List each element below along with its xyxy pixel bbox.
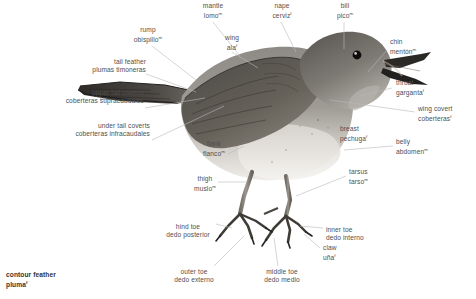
- label-wing-es: alaf: [204, 42, 260, 52]
- label-nape: nape cervizf: [254, 2, 310, 21]
- label-hind-toe-es: dedo posterior: [146, 231, 230, 239]
- label-wing: wing alaf: [204, 34, 260, 53]
- label-under-tail-coverts: under tail coverts coberteras infracauda…: [4, 122, 150, 138]
- label-chin-en: chin: [390, 38, 416, 46]
- label-rump-en: rump: [112, 26, 184, 34]
- label-upper-tail-coverts-en: upper tail coverts: [6, 89, 144, 97]
- label-mantle-en: mantle: [185, 2, 241, 10]
- label-upper-tail-coverts: upper tail coverts coberteras supracauda…: [6, 89, 144, 105]
- label-claw-en: claw: [323, 244, 337, 252]
- label-belly-es: abdomenm: [396, 146, 428, 156]
- leader-tarsus: [296, 176, 346, 196]
- label-flank-en: flank: [188, 140, 240, 148]
- label-tarsus: tarsus tarsom: [349, 168, 368, 187]
- label-chin-es: mentónm: [390, 46, 416, 56]
- label-mantle-es: lomom: [185, 10, 241, 20]
- leader-outer-toe: [214, 236, 244, 266]
- leader-under-tail-coverts: [152, 106, 224, 140]
- label-breast: breast pechugaf: [340, 125, 367, 144]
- label-nape-es: cervizf: [254, 10, 310, 20]
- label-throat: throat gargantaf: [396, 79, 424, 98]
- label-hind-toe-en: hind toe: [146, 223, 230, 231]
- label-breast-en: breast: [340, 125, 367, 133]
- leader-rump: [152, 46, 196, 80]
- label-thigh: thigh muslom: [178, 175, 232, 194]
- label-middle-toe-es: dedo medio: [238, 276, 326, 284]
- label-under-tail-coverts-es: coberteras infracaudales: [4, 130, 150, 138]
- label-claw: claw uñaf: [323, 244, 337, 263]
- label-tarsus-en: tarsus: [349, 168, 368, 176]
- leader-inner-toe: [300, 226, 323, 228]
- label-wing-en: wing: [204, 34, 260, 42]
- label-wing-covert-es: coberterasf: [418, 113, 452, 123]
- leader-middle-toe: [274, 238, 278, 266]
- label-bill-en: bill: [317, 2, 373, 10]
- label-outer-toe: outer toe dedo externo: [150, 268, 238, 284]
- label-tail-feather-es: plumas timoneras: [10, 66, 146, 74]
- leader-wing-covert: [330, 100, 415, 112]
- label-mantle: mantle lomom: [185, 2, 241, 21]
- leader-chin: [368, 50, 387, 72]
- label-flank-es: flancom: [188, 148, 240, 158]
- label-middle-toe: middle toe dedo medio: [238, 268, 326, 284]
- label-contour-feather: contour feather plumaf: [6, 271, 56, 290]
- label-chin: chin mentónm: [390, 38, 416, 57]
- label-throat-es: gargantaf: [396, 87, 424, 97]
- label-outer-toe-en: outer toe: [150, 268, 238, 276]
- label-outer-toe-es: dedo externo: [150, 276, 238, 284]
- leader-nape: [281, 22, 296, 52]
- label-rump: rump obispillom: [112, 26, 184, 45]
- label-tail-feather: tail feather plumas timoneras: [10, 58, 146, 74]
- label-throat-en: throat: [396, 79, 424, 87]
- label-inner-toe: inner toe dedo interno: [326, 226, 364, 242]
- leader-claw: [304, 234, 320, 248]
- label-belly-en: belly: [396, 138, 428, 146]
- label-contour-feather-es: plumaf: [6, 279, 56, 289]
- label-rump-es: obispillom: [112, 34, 184, 44]
- label-inner-toe-es: dedo interno: [326, 234, 364, 242]
- label-nape-en: nape: [254, 2, 310, 10]
- label-flank: flank flancom: [188, 140, 240, 159]
- leader-throat: [360, 88, 392, 96]
- label-inner-toe-en: inner toe: [326, 226, 364, 234]
- label-breast-es: pechugaf: [340, 133, 367, 143]
- label-middle-toe-en: middle toe: [238, 268, 326, 276]
- label-contour-feather-en: contour feather: [6, 271, 56, 279]
- label-belly: belly abdomenm: [396, 138, 428, 157]
- leader-upper-tail-coverts: [145, 98, 205, 108]
- label-bill: bill picom: [317, 2, 373, 21]
- label-thigh-es: muslom: [178, 183, 232, 193]
- label-wing-covert-en: wing covert: [418, 105, 452, 113]
- leader-belly: [344, 146, 393, 150]
- label-wing-covert: wing covert coberterasf: [418, 105, 452, 124]
- label-claw-es: uñaf: [323, 252, 337, 262]
- label-upper-tail-coverts-es: coberteras supracaudales: [6, 97, 144, 105]
- label-bill-es: picom: [317, 10, 373, 20]
- leader-tail-feather: [146, 74, 196, 92]
- label-tail-feather-en: tail feather: [10, 58, 146, 66]
- label-thigh-en: thigh: [178, 175, 232, 183]
- label-hind-toe: hind toe dedo posterior: [146, 223, 230, 239]
- label-tarsus-es: tarsom: [349, 176, 368, 186]
- leader-breast: [326, 128, 337, 132]
- label-under-tail-coverts-en: under tail coverts: [4, 122, 150, 130]
- bird-anatomy-diagram: mantle lomom nape cervizf bill picom rum…: [0, 0, 476, 299]
- leader-wing: [232, 52, 258, 68]
